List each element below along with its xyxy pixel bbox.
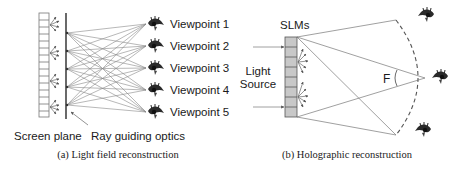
- eye-icon: [148, 104, 164, 119]
- viewpoint-label: Viewpoint 5: [170, 106, 229, 118]
- angle-label: F: [383, 72, 390, 86]
- light-source-label-line1: Light: [246, 65, 272, 77]
- viewpoint-label: Viewpoint 4: [170, 84, 230, 96]
- ray-lines: [67, 24, 146, 112]
- viewing-arc: [396, 20, 418, 135]
- screen-plane-label: Screen plane: [14, 130, 82, 142]
- optics-label: Ray guiding optics: [91, 130, 185, 142]
- figure: Viewpoint 1 Viewpoint 2 Viewpoint 3 View…: [0, 0, 469, 172]
- eye-icon: [148, 60, 164, 75]
- viewpoint-label: Viewpoint 2: [170, 40, 229, 52]
- eye-icon: [148, 82, 164, 97]
- eye-icon: [418, 7, 434, 22]
- panel-b: SLMs Light Source: [240, 7, 448, 161]
- eye-icon: [415, 122, 431, 137]
- eye-icon: [432, 69, 448, 84]
- wavefront-lines: [297, 20, 425, 135]
- panel-a: Viewpoint 1 Viewpoint 2 Viewpoint 3 View…: [14, 13, 230, 161]
- slm-bar: [285, 37, 297, 117]
- diffraction-fans: [298, 49, 308, 107]
- optics-pointer-arrow: [71, 112, 88, 125]
- angle-arc: [395, 70, 397, 86]
- observer-eyes: [415, 7, 448, 137]
- slm-label: SLMs: [280, 19, 310, 31]
- viewpoint-label: Viewpoint 3: [170, 62, 229, 74]
- eye-icon: [148, 16, 164, 31]
- caption-a: (a) Light field reconstruction: [57, 149, 179, 161]
- viewpoint-label: Viewpoint 1: [170, 18, 229, 30]
- light-source-label-line2: Source: [240, 78, 276, 90]
- emission-fans: [50, 17, 59, 114]
- screen-plane-grid: [39, 13, 49, 117]
- viewpoint-eyes: [148, 16, 164, 119]
- caption-b: (b) Holographic reconstruction: [282, 149, 413, 161]
- eye-icon: [148, 38, 164, 53]
